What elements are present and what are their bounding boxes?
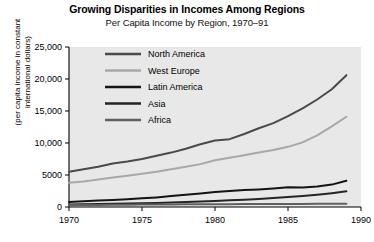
legend-label-west-europe: West Europe <box>148 66 200 76</box>
legend-label-latin-america: Latin America <box>148 82 203 92</box>
y-tick-label: 20,000 <box>34 74 62 84</box>
chart-container: Growing Disparities in Incomes Among Reg… <box>0 0 374 242</box>
y-tick-label: 0 <box>57 202 62 212</box>
chart-plot: 0500010,00015,00020,00025,00019701975198… <box>0 0 374 242</box>
legend-label-north-america: North America <box>148 49 205 59</box>
x-tick-label: 1980 <box>205 215 225 225</box>
y-tick-label: 25,000 <box>34 42 62 52</box>
series-line-africa <box>69 204 346 205</box>
y-tick-label: 15,000 <box>34 106 62 116</box>
y-tick-label: 5000 <box>42 170 62 180</box>
legend-label-asia: Asia <box>148 99 166 109</box>
x-tick-label: 1985 <box>278 215 298 225</box>
y-tick-label: 10,000 <box>34 138 62 148</box>
x-tick-label: 1970 <box>59 215 79 225</box>
x-tick-label: 1990 <box>351 215 371 225</box>
x-tick-label: 1975 <box>132 215 152 225</box>
legend-label-africa: Africa <box>148 115 171 125</box>
